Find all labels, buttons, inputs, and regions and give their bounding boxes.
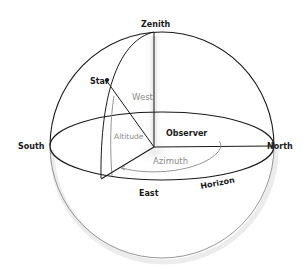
observer-label: Observer (166, 129, 207, 138)
star-label: Star (90, 77, 109, 86)
zenith-label: Zenith (141, 20, 170, 29)
azimuth-label: Azimuth (153, 156, 188, 166)
west-label: West (132, 92, 154, 102)
east-label: East (139, 189, 159, 198)
celestial-sphere-diagram: Zenith Star West South North Altitude Ob… (0, 0, 304, 269)
south-label: South (18, 142, 45, 151)
sphere-shadow (52, 150, 276, 262)
altitude-label: Altitude (114, 132, 144, 141)
north-label: North (267, 142, 293, 151)
